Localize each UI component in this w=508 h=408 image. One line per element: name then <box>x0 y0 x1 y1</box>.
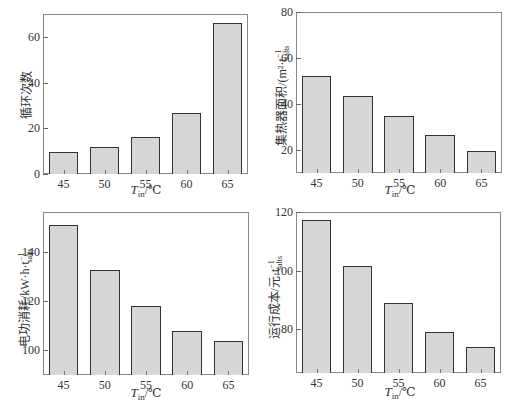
bar-45 <box>302 220 332 373</box>
x-sub: in <box>392 391 399 401</box>
bar-60 <box>425 332 455 373</box>
y-tick <box>296 212 301 213</box>
y-tick-label: 120 <box>263 206 293 218</box>
x-tick-label: 45 <box>305 377 329 389</box>
chart-operating-cost: 运行成本/元·t−1salts Tin/℃ 455055606580100120 <box>0 0 508 408</box>
x-tick <box>399 369 400 373</box>
x-tick <box>317 369 318 373</box>
bar-50 <box>343 266 373 373</box>
y-tick <box>296 329 301 330</box>
y-tick <box>296 271 301 272</box>
x-tick-label: 55 <box>387 377 411 389</box>
x-tick <box>481 369 482 373</box>
x-tick-label: 60 <box>428 377 452 389</box>
y-tick-label: 100 <box>263 265 293 277</box>
y-tick-label: 80 <box>263 323 293 335</box>
x-tick-label: 50 <box>346 377 370 389</box>
x-tick-label: 65 <box>469 377 493 389</box>
bar-55 <box>384 303 414 373</box>
x-tick <box>358 369 359 373</box>
x-tick <box>440 369 441 373</box>
y-axis-title: 运行成本/元·t−1salts <box>265 228 284 368</box>
